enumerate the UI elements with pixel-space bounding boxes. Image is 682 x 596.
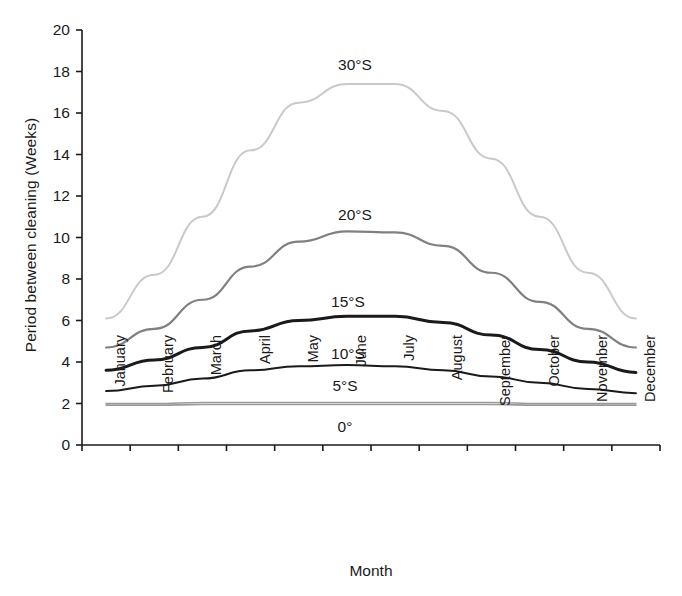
y-tick-label: 6: [36, 313, 70, 329]
y-axis-ticks: [76, 30, 82, 445]
series-label: 10°S: [313, 345, 383, 362]
series-label: 15°S: [313, 293, 383, 310]
x-tick-label: November: [594, 335, 610, 455]
y-tick-label: 4: [36, 354, 70, 370]
x-tick-label: March: [208, 335, 224, 455]
line-chart: Period between cleaning (Weeks) Month 02…: [0, 0, 682, 596]
x-tick-label: February: [160, 335, 176, 455]
y-tick-label: 20: [36, 22, 70, 38]
series-30s: [106, 84, 636, 318]
x-tick-label: September: [497, 335, 513, 455]
x-tick-label: August: [449, 335, 465, 455]
y-tick-label: 18: [36, 64, 70, 80]
y-tick-label: 16: [36, 105, 70, 121]
series-label: 0°: [310, 418, 380, 435]
y-tick-label: 8: [36, 271, 70, 287]
x-tick-label: October: [546, 335, 562, 455]
x-tick-label: January: [112, 335, 128, 455]
series-label: 30°S: [320, 56, 390, 73]
x-tick-label: April: [257, 335, 273, 455]
y-tick-label: 10: [36, 230, 70, 246]
series-label: 5°S: [310, 377, 380, 394]
y-tick-label: 0: [36, 437, 70, 453]
series-label: 20°S: [320, 206, 390, 223]
y-tick-label: 14: [36, 147, 70, 163]
x-tick-label: July: [401, 335, 417, 455]
y-tick-label: 12: [36, 188, 70, 204]
x-tick-label: December: [642, 335, 658, 455]
series-20s: [106, 231, 636, 347]
y-tick-label: 2: [36, 396, 70, 412]
